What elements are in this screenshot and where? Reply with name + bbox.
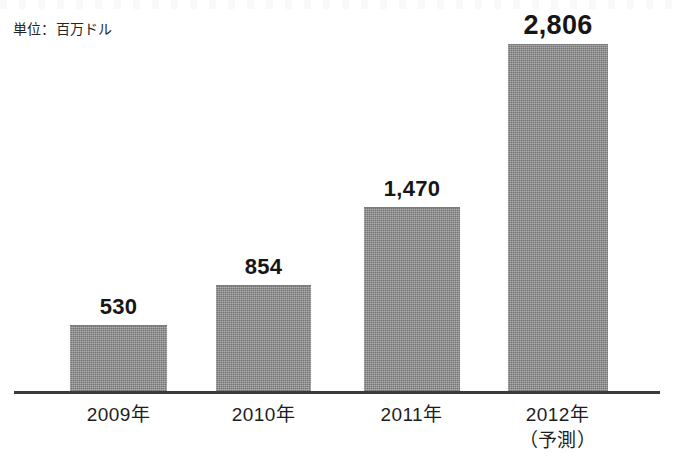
bar-2012 <box>508 44 608 392</box>
bar-value-label: 2,806 <box>508 10 608 41</box>
x-tick-label-2011: 2011年 <box>355 402 468 428</box>
bar-value-label: 530 <box>70 294 167 320</box>
bar-2011 <box>364 207 460 392</box>
x-tick-label-text: 2011年 <box>381 404 443 425</box>
x-tick-label-text: 2009年 <box>87 404 150 425</box>
x-tick-label-2009: 2009年 <box>62 402 175 428</box>
bar-chart-figure: 単位：百万ドル 530 854 1,470 2,806 2009年 2010年 … <box>0 0 676 456</box>
bar-2010 <box>216 285 311 392</box>
bar-value-label: 1,470 <box>364 176 460 202</box>
x-tick-label-text: 2010年 <box>232 404 295 425</box>
x-tick-label-text: 2012年 <box>526 404 589 425</box>
bar-2009 <box>70 325 167 392</box>
x-tick-label-2010: 2010年 <box>207 402 320 428</box>
plot-area: 530 854 1,470 2,806 2009年 2010年 2011年 20… <box>0 0 676 456</box>
x-axis-line <box>14 391 660 394</box>
bar-value-label: 854 <box>216 254 311 280</box>
x-tick-label-2012: 2012年 （予測） <box>501 402 614 454</box>
x-tick-sublabel-forecast: （予測） <box>501 428 614 454</box>
